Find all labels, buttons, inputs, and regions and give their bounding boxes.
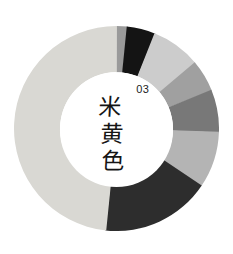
donut-svg (14, 26, 219, 231)
donut-chart-figure: 03 米 黄 色 (0, 0, 233, 254)
donut-chart (14, 26, 219, 231)
donut-hole (60, 72, 173, 185)
